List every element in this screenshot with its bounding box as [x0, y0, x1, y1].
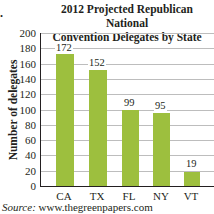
value-label-tx: 152 — [88, 57, 106, 68]
y-tick: 80 — [0, 120, 36, 131]
y-tick: 160 — [0, 59, 36, 70]
plot-area: 172 152 99 95 19 — [40, 33, 214, 187]
value-label-ny: 95 — [154, 100, 167, 111]
y-tick: 40 — [0, 150, 36, 161]
source-label: Source: — [2, 201, 36, 213]
bar-tx — [89, 70, 107, 186]
y-tick: 60 — [0, 135, 36, 146]
y-tick: 100 — [0, 105, 36, 116]
y-tick: 200 — [0, 28, 36, 39]
chart-title-line-1: 2012 Projected Republican National — [40, 2, 214, 30]
value-label-vt: 19 — [185, 158, 198, 169]
y-tick: 180 — [0, 43, 36, 54]
x-tick-vt: VT — [179, 190, 203, 202]
bar-ny — [153, 113, 170, 186]
bar-fl — [122, 110, 139, 186]
y-tick: 140 — [0, 74, 36, 85]
figure-marker: . — [0, 6, 3, 21]
source-note: Source: www.thegreenpapers.com — [2, 201, 153, 213]
source-url: www.thegreenpapers.com — [39, 201, 153, 213]
bar-vt — [184, 172, 200, 187]
bar-ca — [56, 54, 74, 186]
y-tick: 0 — [0, 181, 36, 192]
gridline — [41, 33, 214, 34]
value-label-fl: 99 — [123, 97, 136, 108]
value-label-ca: 172 — [55, 42, 73, 53]
y-tick: 20 — [0, 166, 36, 177]
y-tick: 120 — [0, 89, 36, 100]
